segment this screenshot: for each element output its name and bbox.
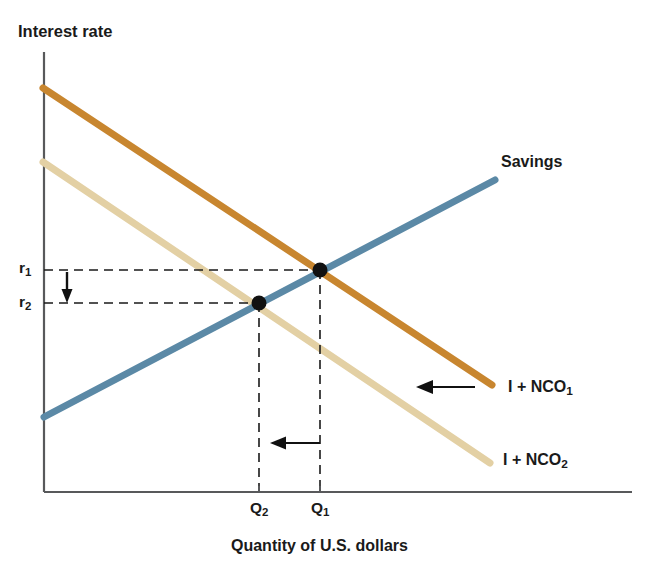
x-tick-label-q1-text: Q bbox=[311, 499, 323, 516]
equilibrium-point-2 bbox=[252, 296, 267, 311]
loanable-funds-chart bbox=[0, 0, 661, 574]
y-axis-title: Interest rate bbox=[18, 23, 112, 40]
curve-label-i-plus-nco2-text: I + NCO bbox=[503, 451, 561, 468]
curve-label-i-plus-nco1: I + NCO1 bbox=[508, 379, 573, 398]
curve-label-i-plus-nco2: I + NCO2 bbox=[503, 452, 568, 471]
equilibrium-point-1 bbox=[313, 263, 328, 278]
curve-label-i-plus-nco1-text: I + NCO bbox=[508, 378, 566, 395]
curve-label-savings: Savings bbox=[501, 154, 562, 170]
x-tick-label-q1: Q1 bbox=[311, 500, 329, 519]
x-tick-label-q2: Q2 bbox=[250, 500, 268, 519]
x-tick-label-q2-text: Q bbox=[250, 499, 262, 516]
y-tick-label-r2: r2 bbox=[19, 294, 31, 313]
curve-label-i-plus-nco2-sub: 2 bbox=[561, 457, 568, 471]
curve-label-i-plus-nco1-sub: 1 bbox=[566, 384, 573, 398]
chart-background bbox=[0, 0, 661, 574]
y-tick-label-r1-sub: 1 bbox=[25, 266, 31, 278]
x-tick-label-q2-sub: 2 bbox=[262, 506, 268, 518]
y-tick-label-r2-sub: 2 bbox=[25, 300, 31, 312]
x-axis-title: Quantity of U.S. dollars bbox=[231, 538, 408, 554]
x-tick-label-q1-sub: 1 bbox=[323, 506, 329, 518]
y-tick-label-r1: r1 bbox=[19, 260, 31, 279]
